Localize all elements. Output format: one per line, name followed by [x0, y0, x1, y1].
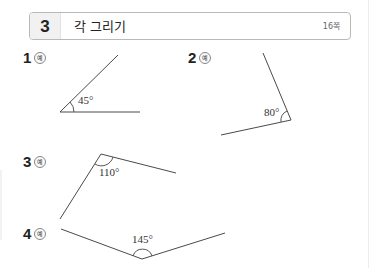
angle-2-figure — [221, 53, 291, 135]
angle-figures — [0, 0, 378, 268]
angle-3-figure — [60, 154, 176, 219]
angle-4-value: 145° — [132, 233, 153, 245]
angle-1-figure — [60, 55, 140, 112]
angle-2-value: 80° — [264, 106, 279, 118]
angle-1-value: 45° — [78, 94, 93, 106]
angle-3-value: 110° — [99, 166, 120, 178]
